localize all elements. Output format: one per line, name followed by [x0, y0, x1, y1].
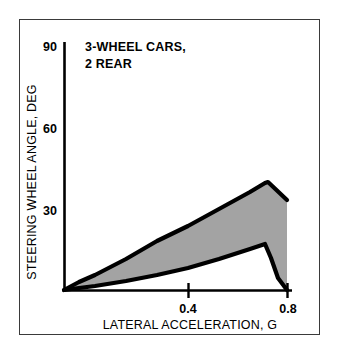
x-axis-title: LATERAL ACCELERATION, G [103, 318, 278, 332]
chart-title-line-1: 3-WHEEL CARS, [85, 40, 186, 54]
y-tick-label-60: 60 [43, 122, 57, 136]
y-axis-title: STEERING WHEEL ANGLE, DEG [25, 84, 39, 280]
x-tick-label-0.8: 0.8 [279, 302, 296, 316]
chart-canvas: 90 60 30 0.4 0.8 LATERAL ACCELERATION, G… [0, 0, 340, 353]
x-tick-label-0.4: 0.4 [179, 302, 196, 316]
y-tick-label-30: 30 [43, 204, 57, 218]
chart-title-line-2: 2 REAR [85, 57, 132, 71]
y-tick-label-90: 90 [43, 40, 57, 54]
figure-container: 90 60 30 0.4 0.8 LATERAL ACCELERATION, G… [0, 0, 340, 353]
